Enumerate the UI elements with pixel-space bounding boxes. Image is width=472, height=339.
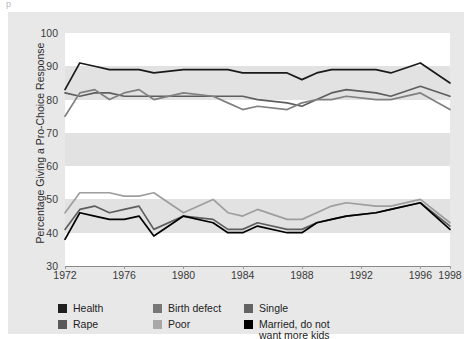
series-line [65,86,450,106]
x-axis-tick: 1972 [42,270,88,281]
x-axis-tick: 1976 [101,270,147,281]
legend-item[interactable]: Single [244,303,330,314]
legend-column: HealthRape [58,303,103,335]
legend-column: SingleMarried, do not want more kids [244,303,330,339]
x-axis-tick: 1984 [220,270,266,281]
x-axis-line [65,266,450,267]
chart-figure: p Percentage Giving a Pro-Choice Respons… [0,0,472,339]
series-line [65,90,450,117]
series-line [65,193,450,223]
legend-item-label: Health [73,303,103,314]
legend-item-label: Poor [168,319,190,330]
y-axis-tick-labels: 10090807060504030 [8,33,58,266]
legend-item[interactable]: Health [58,303,103,314]
y-axis-tick: 60 [14,161,58,172]
legend-swatch-icon [244,320,253,329]
y-axis-tick: 80 [14,95,58,106]
x-axis-tick-mark [302,266,303,269]
legend-item-label: Rape [73,319,98,330]
legend-swatch-icon [58,304,67,313]
chart-legend: HealthRapeBirth defectPoorSingleMarried,… [58,303,448,339]
legend-item-label: Married, do not want more kids [259,319,330,339]
legend-swatch-icon [58,320,67,329]
y-axis-tick: 40 [14,228,58,239]
x-axis-tick: 1992 [338,270,384,281]
x-axis-tick: 1980 [160,270,206,281]
x-axis-tick-mark [361,266,362,269]
x-axis-tick-mark [420,266,421,269]
legend-item-label: Birth defect [168,303,221,314]
x-axis-tick-labels: 19721976198019841988199219961998 [65,270,450,286]
legend-item-label: Single [259,303,288,314]
x-axis-tick-mark [243,266,244,269]
x-axis-tick: 1988 [279,270,325,281]
legend-swatch-icon [153,320,162,329]
legend-swatch-icon [244,304,253,313]
y-axis-tick: 90 [14,61,58,72]
legend-item[interactable]: Birth defect [153,303,221,314]
y-axis-tick: 100 [14,28,58,39]
x-axis-tick-mark [124,266,125,269]
legend-swatch-icon [153,304,162,313]
x-axis-tick-mark [183,266,184,269]
y-axis-tick: 50 [14,194,58,205]
series-line [65,63,450,90]
x-axis-tick-mark [450,266,451,269]
chart-panel: Percentage Giving a Pro-Choice Response … [8,12,464,334]
legend-item[interactable]: Married, do not want more kids [244,319,330,339]
page-artifact-glyph: p [6,0,11,8]
series-line [65,203,450,240]
legend-item[interactable]: Poor [153,319,221,330]
x-axis-tick-mark [65,266,66,269]
legend-item[interactable]: Rape [58,319,103,330]
legend-column: Birth defectPoor [153,303,221,335]
plot-area [65,33,450,266]
series-lines [65,33,450,266]
x-axis-tick: 1998 [427,270,472,281]
y-axis-tick: 70 [14,128,58,139]
